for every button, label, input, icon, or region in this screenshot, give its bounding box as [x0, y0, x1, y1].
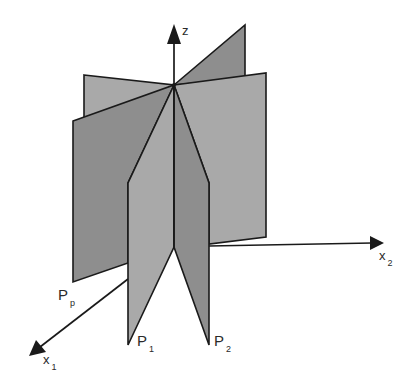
plane-p2-label: P2	[214, 333, 231, 348]
diagram-canvas	[0, 0, 415, 390]
planes-diagram: z x2 x1 P1 P2 Pp	[0, 0, 415, 390]
z-axis-label: z	[182, 24, 189, 37]
z-arrowhead-icon	[167, 24, 181, 44]
plane-p1-label: P1	[137, 333, 154, 348]
plane-p1-subscript: 1	[149, 344, 154, 354]
x1-axis-subscript: 1	[52, 362, 57, 372]
plane-p1-name: P	[137, 332, 147, 349]
x1-axis-label: x1	[43, 353, 57, 366]
x1-axis-name: x	[43, 352, 50, 367]
x2-axis-subscript: 2	[388, 258, 393, 268]
plane-pp-subscript: p	[70, 298, 75, 308]
x2-axis-label: x2	[379, 249, 393, 262]
z-axis-name: z	[182, 23, 189, 38]
plane-pp-label: Pp	[58, 287, 75, 302]
x2-axis-name: x	[379, 248, 386, 263]
plane-p2-name: P	[214, 332, 224, 349]
plane-p2-subscript: 2	[226, 344, 231, 354]
origin-vertex	[172, 83, 176, 87]
x1-axis	[40, 279, 128, 347]
x2-axis	[209, 243, 372, 246]
plane-pp-name: P	[58, 286, 68, 303]
